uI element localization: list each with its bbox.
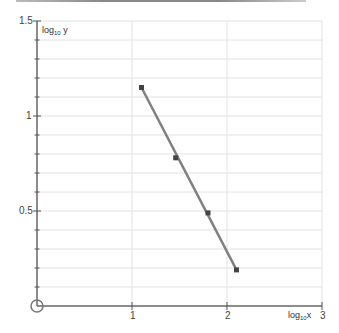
axes — [33, 21, 322, 310]
y-tick-1-5: 1.5 — [19, 15, 33, 26]
data-point — [206, 210, 211, 215]
data-point — [139, 85, 144, 90]
chart: 1.5 1 0.5 1 2 3 log10 y log10x — [0, 0, 339, 333]
y-axis-title: log10 y — [42, 25, 68, 36]
grid — [37, 21, 322, 306]
y-tick-0-5: 0.5 — [19, 205, 33, 216]
x-tick-3: 3 — [320, 310, 326, 321]
x-tick-2: 2 — [225, 310, 231, 321]
y-tick-1: 1 — [26, 110, 32, 121]
series — [139, 85, 239, 272]
x-tick-1: 1 — [130, 310, 136, 321]
data-point — [234, 267, 239, 272]
x-axis-title: log10x — [288, 310, 312, 321]
data-point — [173, 155, 178, 160]
